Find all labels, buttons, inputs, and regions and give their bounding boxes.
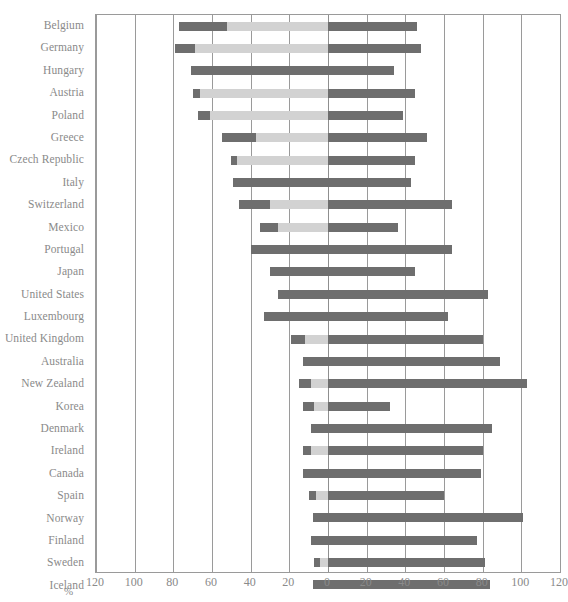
bar-segment-left-dark — [175, 44, 194, 53]
plot-area — [95, 14, 561, 573]
bar-row — [96, 37, 560, 59]
bar-segment-right-dark — [328, 44, 421, 53]
category-label: Hungary — [0, 59, 88, 81]
bar-row — [96, 395, 560, 417]
axis-tick-label: 100 — [125, 575, 143, 590]
category-label: Iceland — [0, 574, 88, 596]
axis-tick-label: 80 — [476, 575, 488, 590]
bar-row — [96, 462, 560, 484]
bar-segment-left-light — [311, 446, 328, 455]
bar-row — [96, 172, 560, 194]
value-axis: 12010080604020020406080100120 — [95, 575, 561, 595]
bar-segment-right-dark — [328, 491, 444, 500]
category-label: Czech Republic — [0, 148, 88, 170]
bar-segment-left-light — [314, 402, 328, 411]
bar-segment-right-dark — [328, 89, 415, 98]
category-label: Spain — [0, 484, 88, 506]
bar-segment-right-dark — [328, 312, 448, 321]
bar-row — [96, 328, 560, 350]
bar-segment-left-dark — [313, 513, 328, 522]
category-label: Sweden — [0, 551, 88, 573]
bar-segment-left-light — [305, 335, 328, 344]
bar-row — [96, 239, 560, 261]
bar-row — [96, 283, 560, 305]
bar-segment-left-dark — [222, 133, 257, 142]
bar-row — [96, 350, 560, 372]
bar-segment-right-dark — [328, 156, 415, 165]
bar-segment-left-light — [227, 22, 328, 31]
bar-segment-left-dark — [291, 335, 305, 344]
bar-segment-right-dark — [328, 379, 527, 388]
bar-segment-right-dark — [328, 66, 394, 75]
category-label: Austria — [0, 81, 88, 103]
bar-segment-right-dark — [328, 22, 417, 31]
axis-tick-label: 60 — [437, 575, 449, 590]
category-label: Australia — [0, 350, 88, 372]
axis-tick-label: 80 — [166, 575, 178, 590]
bar-segment-right-dark — [328, 111, 403, 120]
bar-segment-left-dark — [311, 536, 328, 545]
bar-segment-right-dark — [328, 424, 492, 433]
bar-segment-left-dark — [303, 357, 328, 366]
category-label: Denmark — [0, 417, 88, 439]
bar-segment-right-dark — [328, 513, 523, 522]
bar-segment-left-dark — [264, 312, 328, 321]
axis-unit-label: % — [64, 585, 73, 597]
bar-row — [96, 216, 560, 238]
bar-segment-left-dark — [303, 469, 328, 478]
bar-segment-left-light — [195, 44, 328, 53]
bar-segment-right-dark — [328, 290, 488, 299]
category-label: New Zealand — [0, 372, 88, 394]
bar-segment-right-dark — [328, 446, 483, 455]
axis-tick-label: 60 — [205, 575, 217, 590]
bar-row — [96, 417, 560, 439]
bar-segment-left-dark — [198, 111, 210, 120]
bar-row — [96, 60, 560, 82]
axis-tick-label: 120 — [86, 575, 104, 590]
bar-segment-left-light — [270, 200, 328, 209]
bar-segment-right-dark — [328, 536, 477, 545]
category-label: Greece — [0, 126, 88, 148]
category-label: Ireland — [0, 439, 88, 461]
bar-segment-right-dark — [328, 335, 483, 344]
bar-row — [96, 82, 560, 104]
bar-segment-left-light — [200, 89, 328, 98]
category-label: Belgium — [0, 14, 88, 36]
bar-segment-left-light — [278, 223, 328, 232]
bar-segment-right-dark — [328, 200, 452, 209]
bar-segment-left-dark — [233, 178, 328, 187]
category-label: Switzerland — [0, 193, 88, 215]
bar-segment-right-dark — [328, 267, 415, 276]
bar-segment-left-light — [316, 491, 328, 500]
category-label: Finland — [0, 529, 88, 551]
bar-segment-left-dark — [260, 223, 277, 232]
category-label: Japan — [0, 260, 88, 282]
bar-segment-left-dark — [299, 379, 311, 388]
bar-segment-left-dark — [303, 402, 315, 411]
bar-row — [96, 485, 560, 507]
bar-segment-right-dark — [328, 133, 427, 142]
bar-row — [96, 507, 560, 529]
category-label: United Kingdom — [0, 327, 88, 349]
bar-row — [96, 552, 560, 574]
bar-row — [96, 149, 560, 171]
axis-tick-label: 40 — [244, 575, 256, 590]
bar-segment-right-dark — [328, 245, 452, 254]
category-label: Korea — [0, 395, 88, 417]
category-label: Portugal — [0, 238, 88, 260]
category-label: Poland — [0, 104, 88, 126]
axis-tick-label: 20 — [282, 575, 294, 590]
axis-tick-label: 40 — [398, 575, 410, 590]
axis-tick-label: 100 — [511, 575, 529, 590]
bar-segment-left-light — [237, 156, 328, 165]
category-label: Canada — [0, 462, 88, 484]
bar-row — [96, 261, 560, 283]
bar-segment-right-dark — [328, 223, 398, 232]
bar-segment-right-dark — [328, 402, 390, 411]
bar-segment-left-dark — [303, 446, 311, 455]
bar-segment-right-dark — [328, 469, 481, 478]
bar-segment-right-dark — [328, 558, 485, 567]
bar-segment-left-dark — [278, 290, 328, 299]
bar-row — [96, 440, 560, 462]
